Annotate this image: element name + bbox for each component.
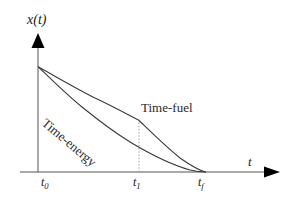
curve-label-time-fuel: Time-fuel: [141, 101, 193, 114]
tick-label-t0: t0: [41, 176, 49, 188]
tick-label-t1: t1: [133, 176, 141, 188]
x-axis-arrowhead-icon: [264, 167, 280, 178]
tick-label-t1-subscript: 1: [136, 181, 140, 191]
tick-label-tf: tf: [198, 176, 204, 188]
x-axis-label: t: [248, 155, 252, 168]
time-fuel-curve: [39, 67, 206, 172]
optimal-control-trajectory-figure: x(t) t t0 t1 tf Time-fuel Time-energy: [0, 0, 286, 205]
tick-label-tf-subscript: f: [201, 181, 203, 191]
y-axis-label: x(t): [27, 13, 46, 27]
time-energy-curve: [39, 67, 206, 172]
y-axis-arrowhead-icon: [32, 33, 45, 48]
tick-label-t0-subscript: 0: [44, 181, 48, 191]
